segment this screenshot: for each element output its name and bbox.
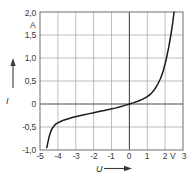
x-tick-label--1: -1 <box>104 152 118 161</box>
x-tick-label-1: 1 <box>140 152 154 161</box>
y-tick-label-2.0: 2,0 <box>14 9 36 18</box>
x-axis-unit-label: V <box>170 152 176 161</box>
x-tick-label--2: -2 <box>87 152 101 161</box>
x-axis-title: U <box>96 164 103 174</box>
y-tick-label-1.0: 1,0 <box>14 54 36 63</box>
y-tick-label-1.5: 1,5 <box>14 31 36 40</box>
y-tick-label-0.5: 0,5 <box>14 77 36 86</box>
y-axis-title: I <box>6 96 9 106</box>
y-axis-unit-label: A <box>30 21 36 30</box>
y-tick-label-0: 0 <box>14 100 36 109</box>
x-tick-label--4: -4 <box>51 152 65 161</box>
x-tick-label--5: -5 <box>33 152 47 161</box>
x-tick-label-3: 3 <box>177 152 191 161</box>
x-tick-label--3: -3 <box>69 152 83 161</box>
y-tick-label--0.5: -0,5 <box>14 123 36 132</box>
iv-characteristic-figure: 2,0 A 1,5 1,0 0,5 0 -0,5 -1,0 -5 -4 -3 -… <box>0 0 192 185</box>
x-tick-label-0: 0 <box>122 152 136 161</box>
x-axis-arrow-icon <box>104 166 132 171</box>
